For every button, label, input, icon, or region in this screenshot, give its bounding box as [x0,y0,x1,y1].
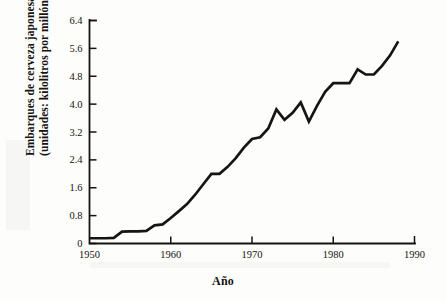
data-series-line [90,41,399,238]
y-tick-label: 4.0 [69,99,82,110]
y-tick-label: 2.4 [69,154,83,165]
y-tick-label: 5.6 [69,43,82,54]
y-tick-label: 0.8 [69,210,82,221]
axis-lines [90,20,416,244]
y-axis-ticks: 00.81.62.43.24.04.85.66.4 [69,15,96,249]
chart-page: 00.81.62.43.24.04.85.66.4 19501960197019… [0,0,446,301]
y-tick-label: 0 [77,238,82,249]
y-tick-label: 6.4 [69,15,83,26]
y-tick-label: 4.8 [69,71,82,82]
chart-axes [90,20,416,244]
x-tick-label: 1950 [79,249,100,260]
y-tick-label: 3.2 [69,127,82,138]
chart-plot-area: 00.81.62.43.24.04.85.66.4 19501960197019… [0,0,446,301]
x-tick-label: 1970 [242,249,263,260]
x-tick-label: 1980 [323,249,344,260]
y-tick-label: 1.6 [69,182,82,193]
x-tick-label: 1990 [404,249,425,260]
x-tick-label: 1960 [160,249,181,260]
x-axis-ticks: 19501960197019801990 [79,237,425,260]
x-axis-label: Año [0,274,446,289]
beer-shipments-line-chart: 00.81.62.43.24.04.85.66.4 19501960197019… [0,0,446,301]
